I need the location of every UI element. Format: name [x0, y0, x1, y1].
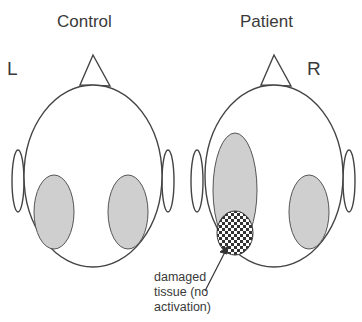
patient-title: Patient — [240, 12, 293, 32]
damaged-tissue-annotation: damaged tissue (no activation) — [154, 270, 211, 315]
patient-damaged-tissue — [217, 211, 253, 255]
control-right-ear — [162, 150, 174, 212]
right-side-label: R — [307, 58, 321, 80]
patient-left-ear — [191, 150, 203, 212]
annotation-line-2: tissue (no — [154, 285, 211, 300]
patient-right-activation — [289, 175, 329, 249]
patient-head — [191, 55, 355, 291]
patient-nose — [261, 55, 291, 86]
annotation-line-3: activation) — [154, 300, 211, 315]
control-left-activation — [34, 175, 74, 249]
patient-right-ear — [343, 150, 355, 212]
left-side-label: L — [7, 58, 18, 80]
annotation-line-1: damaged — [154, 270, 211, 285]
control-right-activation — [108, 175, 148, 249]
control-title: Control — [57, 12, 112, 32]
control-left-ear — [12, 150, 24, 212]
control-nose — [80, 55, 110, 86]
control-head — [12, 55, 174, 267]
